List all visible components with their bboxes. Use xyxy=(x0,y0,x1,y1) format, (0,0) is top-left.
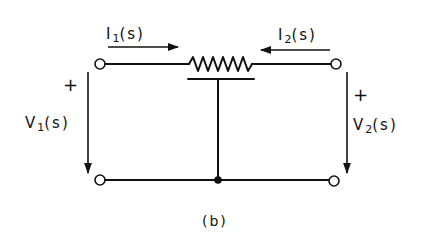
figure-caption: (b) xyxy=(202,214,228,228)
v1-label: V1(s) xyxy=(25,116,70,133)
terminal-bottom-right xyxy=(329,176,339,186)
resistor-zigzag xyxy=(189,57,252,71)
terminal-bottom-left xyxy=(95,175,105,185)
junction-dot xyxy=(214,176,222,184)
v2-plus-sign: + xyxy=(353,86,368,104)
terminal-top-right xyxy=(331,59,341,69)
v2-label: V2(s) xyxy=(353,118,398,135)
i2-label: I2(s) xyxy=(278,28,317,45)
i1-label: I1(s) xyxy=(106,27,145,44)
terminal-top-left xyxy=(95,59,105,69)
v1-plus-sign: + xyxy=(63,76,78,94)
circuit-diagram: I1(s) I2(s) + V1(s) + V2(s) (b) xyxy=(0,0,425,242)
